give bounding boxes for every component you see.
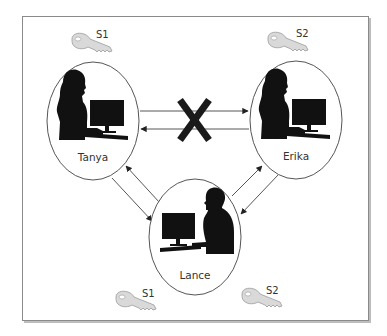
node-label-tanya: Tanya <box>77 151 108 163</box>
key-label-lance-s1: S1 <box>142 288 155 299</box>
key-label-tanya: S1 <box>96 29 109 40</box>
key-label-lance-s2: S2 <box>266 285 279 296</box>
node-label-erika: Erika <box>283 150 309 162</box>
key-distribution-diagram: Tanya Erika Lance S1 S2 S1 S2 <box>0 0 387 336</box>
node-erika: Erika <box>250 61 342 179</box>
node-label-lance: Lance <box>179 269 210 281</box>
node-lance: Lance <box>149 179 241 295</box>
node-tanya: Tanya <box>47 62 139 180</box>
key-label-erika: S2 <box>296 28 309 39</box>
